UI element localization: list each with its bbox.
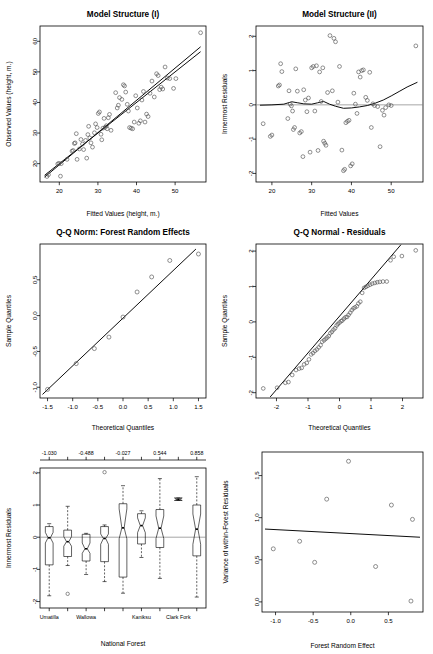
- x-tick-label: 1.0: [169, 403, 178, 410]
- data-point: [150, 79, 154, 83]
- y-tick-label: -1.0: [31, 381, 38, 392]
- y-tick-label: -2: [31, 598, 38, 604]
- data-point: [271, 547, 275, 551]
- trend-line-qqline: [43, 249, 196, 394]
- data-point: [336, 100, 340, 104]
- x-tick-label: -0.5: [308, 617, 319, 624]
- data-point: [313, 560, 317, 564]
- y-tick-label: 60: [31, 37, 38, 44]
- data-point: [326, 91, 330, 95]
- x-tick-label: 0.0: [119, 403, 128, 410]
- data-point: [352, 91, 356, 95]
- data-point: [334, 40, 338, 44]
- data-point: [279, 62, 283, 66]
- y-axis-label: Observed Values (height, m.): [5, 61, 13, 146]
- data-point: [409, 599, 413, 603]
- y-tick-label: -1: [247, 354, 254, 360]
- boxplot-box: [45, 524, 53, 596]
- x-tick-label: 50: [388, 187, 395, 194]
- x-tick-label: -0.5: [93, 403, 104, 410]
- data-point: [302, 88, 306, 92]
- data-point: [369, 126, 373, 130]
- data-point: [59, 174, 63, 178]
- chart-variance-vs-random-effect: -1.0-0.50.00.50.00.51.01.5Forest Random …: [216, 436, 433, 654]
- x-axis-label: Fitted Values: [321, 210, 360, 217]
- boxplot-box: [174, 498, 182, 501]
- chart-title: Q-Q Normal - Residuals: [294, 228, 386, 237]
- chart-title: Model Structure (II): [302, 10, 377, 19]
- data-point: [414, 44, 418, 48]
- y-tick-label: -1: [247, 136, 254, 142]
- x-tick-label: 20: [56, 187, 63, 194]
- y-tick-label: -0.5: [31, 346, 38, 357]
- top-axis-label: 0.544: [153, 450, 166, 456]
- data-point: [108, 113, 112, 117]
- data-point: [358, 75, 362, 79]
- data-point: [199, 31, 203, 35]
- y-tick-label: 1: [247, 68, 254, 72]
- y-tick-label: 0.5: [253, 555, 260, 564]
- x-tick-label: -1.5: [42, 403, 53, 410]
- data-point: [85, 156, 89, 160]
- x-axis-label: Theoretical Quantiles: [308, 424, 371, 432]
- data-point: [93, 131, 97, 135]
- outlier-point: [103, 470, 106, 473]
- plot-frame: [40, 26, 206, 182]
- box-outline: [45, 527, 53, 565]
- data-point: [307, 96, 311, 100]
- data-point: [91, 145, 95, 149]
- x-tick-label: 0.0: [347, 617, 356, 624]
- y-axis-label: Innermost Residuals: [221, 73, 228, 134]
- y-tick-label: 1: [247, 284, 254, 288]
- trend-line-loess: [260, 82, 417, 108]
- y-tick-label: -1: [31, 566, 38, 572]
- data-point: [414, 249, 418, 253]
- y-tick-label: 0.0: [253, 597, 260, 606]
- top-axis-label: -1.030: [42, 450, 57, 456]
- data-point: [347, 459, 351, 463]
- x-tick-label: Wallowa: [76, 614, 96, 620]
- data-point: [294, 67, 298, 71]
- data-point: [374, 565, 378, 569]
- box-outline: [64, 530, 72, 556]
- box-outline: [82, 534, 90, 561]
- data-point: [354, 102, 358, 106]
- x-tick-label: 0.5: [144, 403, 153, 410]
- boxplot-box: [64, 506, 72, 595]
- data-point: [313, 109, 317, 113]
- diagnostic-plot-figure: Model Structure (I)203040502030405060Fit…: [0, 0, 433, 654]
- data-point: [168, 77, 172, 81]
- panel-variance-vs-random-effect: -1.0-0.50.00.50.00.51.01.5Forest Random …: [216, 436, 433, 654]
- y-tick-label: 2: [247, 249, 254, 253]
- data-point: [355, 112, 359, 116]
- data-point: [196, 252, 200, 256]
- data-point: [330, 89, 334, 93]
- data-point: [280, 70, 284, 74]
- y-axis-label: Sample Quantiles: [221, 294, 229, 347]
- plot-frame: [40, 244, 206, 398]
- y-tick-label: 0: [247, 103, 254, 107]
- data-point: [286, 117, 290, 121]
- data-point: [109, 128, 113, 132]
- x-tick-label: 40: [348, 187, 355, 194]
- box-outline: [119, 504, 127, 577]
- chart-qq-normal-residuals: Q-Q Normal - Residuals-2-1012-2-1012Theo…: [216, 222, 433, 436]
- data-point: [373, 281, 377, 285]
- data-point: [82, 148, 86, 152]
- data-point: [79, 138, 83, 142]
- data-point: [297, 367, 301, 371]
- trend-line-trend: [265, 529, 420, 537]
- data-point: [168, 258, 172, 262]
- x-axis-label: Forest Random Effect: [310, 642, 374, 649]
- x-tick-label: 30: [308, 187, 315, 194]
- data-point: [400, 254, 404, 258]
- data-point: [74, 132, 78, 136]
- y-tick-label: 1.5: [253, 471, 260, 480]
- data-point: [135, 106, 139, 110]
- data-point: [100, 138, 104, 142]
- y-tick-label: 0: [247, 320, 254, 324]
- x-tick-label: 1: [369, 403, 373, 410]
- x-tick-label: 40: [133, 187, 140, 194]
- y-axis-label: Variance of within-Forest Residuals: [222, 480, 229, 584]
- data-point: [102, 116, 106, 120]
